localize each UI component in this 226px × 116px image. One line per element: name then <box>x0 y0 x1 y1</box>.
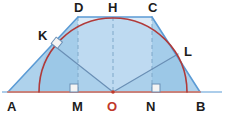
label-H: H <box>108 0 117 15</box>
label-O: O <box>107 99 117 114</box>
label-A: A <box>7 99 17 114</box>
label-N: N <box>146 99 155 114</box>
label-C: C <box>148 0 158 15</box>
label-M: M <box>72 99 83 114</box>
label-K: K <box>38 28 48 43</box>
right-angle-at-N <box>152 84 160 92</box>
label-L: L <box>184 44 192 59</box>
center-point-O <box>111 90 115 94</box>
right-angle-at-M <box>70 84 78 92</box>
figure-fills <box>8 17 200 92</box>
label-B: B <box>196 99 205 114</box>
label-D: D <box>74 0 83 15</box>
geometry-figure: A B C D H K L M N O <box>0 0 226 116</box>
geometry-canvas: A B C D H K L M N O <box>0 0 226 116</box>
